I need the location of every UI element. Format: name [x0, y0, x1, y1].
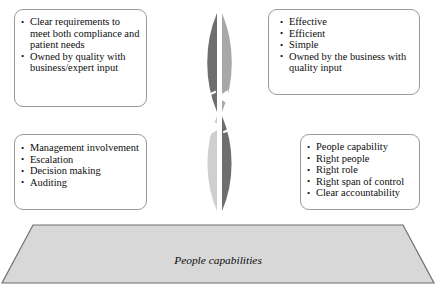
list-item: Clear requirements to meet both complian… — [21, 16, 141, 51]
list-item: Auditing — [21, 177, 141, 189]
list-item: Simple — [280, 39, 414, 51]
list-item: Right role — [307, 164, 415, 176]
list-item: Owned by the business with quality input — [280, 51, 414, 74]
list-item: Escalation — [21, 154, 141, 166]
list-item: People capability — [307, 141, 415, 153]
callout-integrated-standards: Clear requirements to meet both complian… — [14, 9, 147, 107]
callout-governance-management-oversight: Management involvement Escalation Decisi… — [14, 134, 147, 210]
callout-list: Management involvement Escalation Decisi… — [21, 142, 141, 188]
list-item: Decision making — [21, 165, 141, 177]
list-item: Right span of control — [307, 176, 415, 188]
list-item: Management involvement — [21, 142, 141, 154]
callout-list: Effective Efficient Simple Owned by the … — [280, 16, 414, 74]
list-item: Right people — [307, 153, 415, 165]
callout-organization: People capability Right people Right rol… — [300, 134, 420, 210]
diagram-canvas: People capabilities Integrated standards… — [0, 0, 436, 294]
base-platform — [0, 224, 436, 286]
list-item: Owned by quality with business/expert in… — [21, 51, 141, 74]
base-trapezoid-shape — [2, 225, 434, 283]
callout-list: People capability Right people Right rol… — [307, 141, 415, 199]
callout-business-processes: Effective Efficient Simple Owned by the … — [268, 9, 420, 95]
callout-list: Clear requirements to meet both complian… — [21, 16, 141, 74]
list-item: Effective — [280, 16, 414, 28]
list-item: Clear accountability — [307, 187, 415, 199]
circular-rotation-arrows-icon — [201, 90, 238, 134]
list-item: Efficient — [280, 28, 414, 40]
quadrant-top-left — [207, 13, 217, 112]
